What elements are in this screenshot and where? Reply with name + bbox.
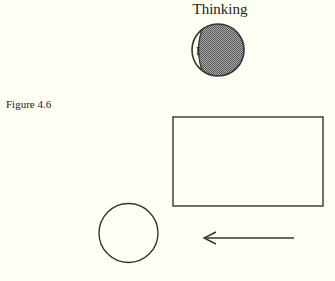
head-label: I [196,43,200,58]
rectangle-shape [173,117,323,206]
arrow-left-icon [204,232,294,244]
circle-shape [99,204,158,263]
diagram-canvas: I [0,0,335,281]
thinking-head-icon [180,22,244,78]
